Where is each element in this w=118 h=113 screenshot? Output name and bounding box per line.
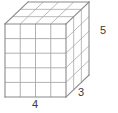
rectangular-prism-diagram [0,0,118,113]
top-face-grid [13,2,82,24]
dimension-label-height: 5 [100,25,106,36]
dimension-label-depth: 3 [78,87,84,98]
figure-container: 4 3 5 [0,0,118,113]
front-face-grid [5,24,66,97]
dimension-label-width: 4 [32,99,38,110]
